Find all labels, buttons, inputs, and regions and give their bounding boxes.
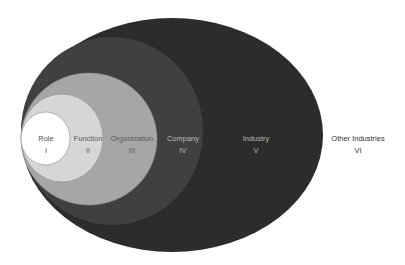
label-role-numeral: I bbox=[38, 145, 53, 157]
label-company: Company IV bbox=[167, 133, 199, 157]
label-organization: Organization III bbox=[111, 133, 154, 157]
label-company-numeral: IV bbox=[167, 145, 199, 157]
nested-ellipses-diagram: Role I Function II Organization III Comp… bbox=[0, 0, 405, 265]
label-other-industries-numeral: VI bbox=[331, 145, 384, 157]
label-other-industries-name: Other Industries bbox=[331, 133, 384, 145]
label-organization-name: Organization bbox=[111, 133, 154, 145]
label-industry-name: Industry bbox=[243, 133, 270, 145]
label-role-name: Role bbox=[38, 133, 53, 145]
label-function: Function II bbox=[74, 133, 103, 157]
label-company-name: Company bbox=[167, 133, 199, 145]
label-other-industries: Other Industries VI bbox=[331, 133, 384, 157]
label-function-name: Function bbox=[74, 133, 103, 145]
label-role: Role I bbox=[38, 133, 53, 157]
label-industry: Industry V bbox=[243, 133, 270, 157]
label-industry-numeral: V bbox=[243, 145, 270, 157]
label-function-numeral: II bbox=[74, 145, 103, 157]
label-organization-numeral: III bbox=[111, 145, 154, 157]
